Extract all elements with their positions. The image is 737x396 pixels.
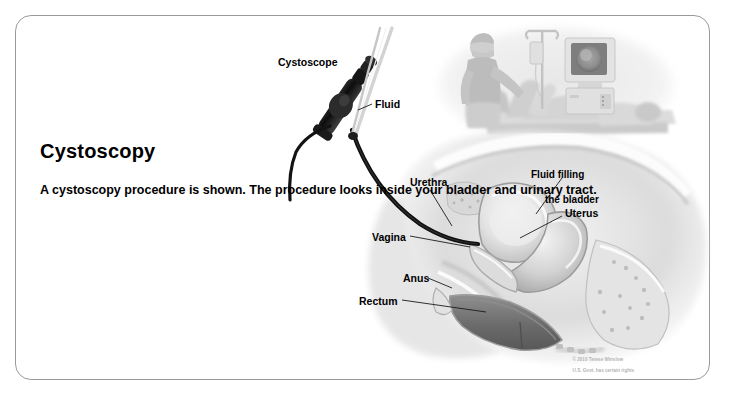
label-fluid: Fluid [375,98,400,110]
label-vagina: Vagina [372,231,406,243]
description-text: A cystoscopy procedure is shown. The pro… [40,181,268,201]
label-rectum: Rectum [359,295,398,307]
copyright-credit: © 2010 Terese Winslow U.S. Govt. has cer… [570,352,634,374]
label-fluid-filling-line1: Fluid filling [531,169,584,180]
inset-monitor [565,38,615,114]
label-cystoscope: Cystoscope [278,56,338,68]
pelvis-cross-section [368,130,706,363]
illustration-stage: Cystoscopy A cystoscopy procedure is sho… [0,0,737,396]
label-uterus: Uterus [565,207,598,219]
label-fluid-filling-line2: the bladder [545,194,599,205]
label-urethra: Urethra [410,176,447,188]
page-title: Cystoscopy [40,140,155,163]
label-fluid-filling-the-bladder: Fluid filling the bladder [531,169,599,207]
credit-line1: © 2010 Terese Winslow [573,357,624,362]
credit-line2: U.S. Govt. has certain rights [573,368,635,373]
label-anus: Anus [403,272,429,284]
